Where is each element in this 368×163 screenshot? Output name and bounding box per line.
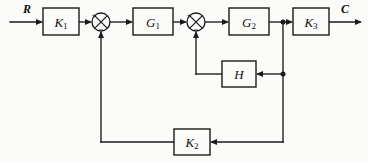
- junction-dot-inner-branch: [281, 72, 286, 77]
- block-g2-subscript: 2: [251, 21, 256, 31]
- block-diagram-canvas: K1 G1 G2 K3 H: [0, 0, 368, 163]
- wire-g1-to-sum2: [173, 19, 187, 25]
- block-g1-subscript: 1: [155, 21, 160, 31]
- sum1-sign-left: +: [92, 11, 97, 20]
- block-k1-subscript: 1: [63, 21, 68, 31]
- wire-sum1-to-g1: [110, 19, 133, 25]
- input-signal-label: R: [22, 2, 31, 16]
- block-g2[interactable]: G2: [229, 8, 269, 35]
- wire-k3-to-output: [329, 19, 362, 25]
- summing-junction-1[interactable]: + −: [92, 11, 110, 34]
- wire-input-to-k1: [10, 19, 43, 25]
- sum2-sign-bottom: −: [194, 25, 199, 34]
- output-signal-label: C: [341, 2, 350, 16]
- wire-outer-feedback-k2: [98, 31, 283, 145]
- svg-text:H: H: [233, 67, 244, 82]
- wire-sum2-to-g2: [205, 19, 229, 25]
- block-h-label: H: [233, 67, 244, 82]
- block-k2-subscript: 2: [194, 141, 199, 151]
- block-h[interactable]: H: [222, 61, 256, 87]
- block-k3[interactable]: K3: [293, 8, 329, 35]
- block-k2[interactable]: K2: [174, 129, 210, 155]
- sum1-sign-bottom: −: [99, 25, 104, 34]
- summing-junction-2[interactable]: + −: [187, 11, 205, 34]
- block-g1[interactable]: G1: [133, 8, 173, 35]
- wire-k1-to-sum1: [79, 19, 92, 25]
- diagram-svg: K1 G1 G2 K3 H: [0, 0, 368, 163]
- block-k3-subscript: 3: [313, 21, 318, 31]
- junction-dot-g2-output: [281, 20, 286, 25]
- block-k1[interactable]: K1: [43, 8, 79, 35]
- sum2-sign-left: +: [187, 11, 192, 20]
